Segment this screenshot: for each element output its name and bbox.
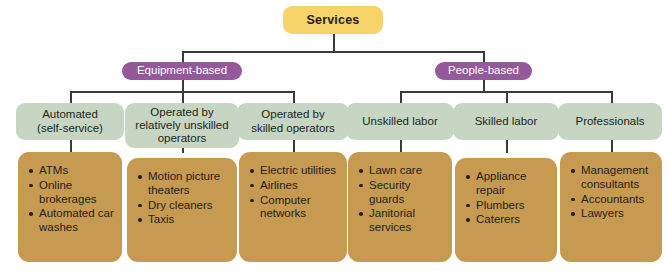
list-item: Taxis (137, 213, 229, 227)
connector-level1-bus (182, 51, 485, 53)
list-item: Lawyers (570, 207, 654, 221)
type-label-automated-line2: (self-service) (37, 122, 103, 135)
type-label-skilled-labor: Skilled labor (475, 115, 538, 128)
connector-people-child-1 (400, 91, 402, 103)
list-item: Appliance repair (465, 170, 549, 198)
examples-node-unskilled-labor: Lawn care Security guards Janitorial ser… (348, 152, 452, 262)
category-label-equipment-based: Equipment-based (137, 64, 227, 77)
type-label-unskilled-ops-line1: Operated by (135, 106, 228, 119)
connector-equipment-child-1 (70, 91, 72, 103)
type-label-skilled-ops-line2: skilled operators (251, 122, 335, 135)
list-item: Computer networks (249, 194, 339, 222)
root-node-label: Services (306, 13, 359, 28)
examples-node-relatively-unskilled-operators: Motion picture theaters Dry cleaners Tax… (127, 158, 237, 262)
connector-type-to-examples-3 (293, 139, 295, 153)
list-item: ATMs (28, 164, 114, 178)
category-label-people-based: People-based (448, 64, 519, 77)
connector-root-stem (333, 33, 335, 52)
list-item: Security guards (358, 179, 444, 207)
type-label-unskilled-ops-line3: operators (135, 132, 228, 145)
type-node-relatively-unskilled-operators: Operated by relatively unskilled operato… (125, 103, 239, 148)
examples-node-skilled-labor: Appliance repair Plumbers Caterers (455, 158, 557, 262)
connector-type-to-examples-6 (611, 139, 613, 153)
examples-list-skilled-operators: Electric utilities Airlines Computer net… (249, 164, 339, 221)
connector-type-to-examples-1 (70, 139, 72, 153)
list-item: Accountants (570, 193, 654, 207)
connector-equipment-child-3 (293, 91, 295, 103)
type-node-skilled-operators: Operated by skilled operators (237, 103, 349, 140)
examples-list-automated: ATMs Online brokerages Automated car was… (28, 164, 114, 235)
type-node-unskilled-labor: Unskilled labor (346, 103, 454, 140)
list-item: Motion picture theaters (137, 170, 229, 198)
connector-type-to-examples-4 (400, 139, 402, 153)
services-classification-diagram: Services Equipment-based People-based Au… (0, 0, 669, 278)
list-item: Airlines (249, 179, 339, 193)
list-item: Automated car washes (28, 207, 114, 235)
examples-node-skilled-operators: Electric utilities Airlines Computer net… (239, 152, 347, 262)
type-label-professionals: Professionals (575, 115, 644, 128)
list-item: Plumbers (465, 199, 549, 213)
connector-people-child-2 (506, 91, 508, 103)
type-node-skilled-labor: Skilled labor (453, 103, 559, 140)
type-label-unskilled-labor: Unskilled labor (362, 115, 437, 128)
connector-equipment-child-2 (182, 91, 184, 103)
list-item: Dry cleaners (137, 199, 229, 213)
examples-list-relatively-unskilled-operators: Motion picture theaters Dry cleaners Tax… (137, 170, 229, 227)
category-node-people-based: People-based (435, 62, 532, 80)
type-label-unskilled-ops-line2: relatively unskilled (135, 119, 228, 132)
connector-type-to-examples-5 (506, 139, 508, 153)
list-item: Janitorial services (358, 207, 444, 235)
list-item: Lawn care (358, 164, 444, 178)
type-label-skilled-ops-line1: Operated by (251, 108, 335, 121)
type-node-automated: Automated (self-service) (16, 103, 124, 140)
examples-node-professionals: Management consultants Accountants Lawye… (560, 152, 662, 262)
examples-list-professionals: Management consultants Accountants Lawye… (570, 164, 654, 221)
type-node-professionals: Professionals (558, 103, 662, 140)
list-item: Management consultants (570, 164, 654, 192)
examples-list-unskilled-labor: Lawn care Security guards Janitorial ser… (358, 164, 444, 235)
type-label-automated-line1: Automated (37, 108, 103, 121)
list-item: Caterers (465, 213, 549, 227)
list-item: Online brokerages (28, 179, 114, 207)
examples-list-skilled-labor: Appliance repair Plumbers Caterers (465, 170, 549, 227)
list-item: Electric utilities (249, 164, 339, 178)
examples-node-automated: ATMs Online brokerages Automated car was… (18, 152, 122, 262)
connector-people-child-3 (611, 91, 613, 103)
root-node-services: Services (283, 6, 383, 34)
category-node-equipment-based: Equipment-based (122, 62, 242, 80)
